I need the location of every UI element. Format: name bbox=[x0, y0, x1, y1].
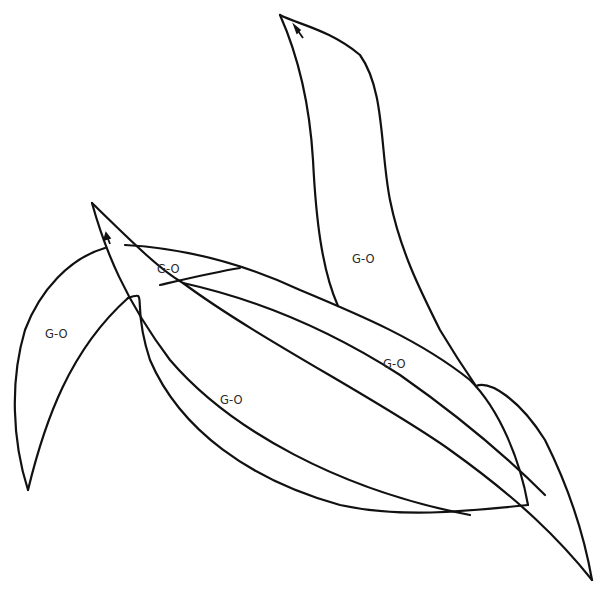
left-crescent-leaf-outer-edge bbox=[15, 248, 105, 490]
center-band-divider bbox=[183, 283, 545, 495]
label-left-crescent-leaf: G-O bbox=[45, 327, 67, 341]
top-right-leaf-left-edge bbox=[280, 15, 338, 306]
big-leaf-bottom-edge bbox=[128, 296, 528, 513]
label-top-right-leaf: G-O bbox=[352, 252, 374, 266]
label-center-right-band: G-O bbox=[383, 357, 405, 371]
label-center-left-region: G-O bbox=[220, 393, 242, 407]
left-crescent-leaf-inner-edge bbox=[28, 298, 128, 490]
top-right-leaf-outline bbox=[280, 15, 476, 386]
top-right-leaf-arrow-icon bbox=[294, 25, 303, 38]
label-upper-band: G-O bbox=[157, 262, 179, 276]
leaf-diagram: G-O G-O G-O G-O G-O bbox=[0, 0, 607, 593]
